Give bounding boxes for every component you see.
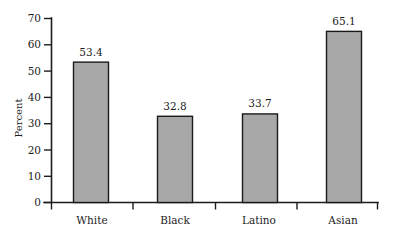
- category-label-asian: Asian: [327, 214, 358, 226]
- bar-value-label: 53.4: [79, 46, 103, 58]
- y-tick-label: 20: [28, 144, 41, 156]
- bar-white[interactable]: [74, 62, 109, 202]
- bar-chart: 70 60 50 40 30 20 10 0 Percent: [0, 0, 398, 239]
- category-label-black: Black: [160, 214, 190, 226]
- y-axis-title: Percent: [13, 99, 24, 138]
- chart-canvas: 70 60 50 40 30 20 10 0 Percent: [0, 0, 398, 239]
- bar-asian[interactable]: [327, 31, 362, 202]
- y-tick-label: 70: [28, 12, 41, 24]
- y-tick-label: 60: [28, 38, 41, 50]
- y-tick-label: 10: [28, 170, 41, 182]
- category-label-white: White: [76, 214, 107, 226]
- bar-value-label: 65.1: [332, 15, 355, 27]
- category-label-latino: Latino: [242, 214, 276, 226]
- y-tick-label: 50: [28, 65, 41, 77]
- bar-latino[interactable]: [243, 114, 278, 203]
- y-tick-label: 30: [28, 117, 41, 129]
- y-tick-label: 0: [34, 196, 41, 208]
- bar-value-label: 32.8: [163, 100, 186, 112]
- y-tick-label: 40: [28, 91, 41, 103]
- bar-value-label: 33.7: [248, 97, 271, 109]
- bar-black[interactable]: [158, 116, 193, 202]
